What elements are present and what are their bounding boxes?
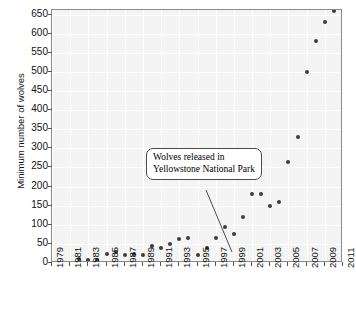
data-point — [314, 39, 318, 43]
data-point — [305, 70, 309, 74]
gridline-horizontal — [52, 225, 341, 226]
x-axis-tick-mark — [251, 262, 252, 266]
gridline-horizontal — [52, 72, 341, 73]
plot-area — [51, 9, 342, 262]
x-axis-tick-mark — [178, 262, 179, 266]
gridline-horizontal — [52, 91, 341, 92]
y-axis-tick-mark — [48, 224, 52, 225]
data-point — [277, 200, 281, 204]
y-axis-tick-mark — [48, 166, 52, 167]
y-axis-tick-label: 50 — [14, 238, 48, 248]
annotation-wolves-released: Wolves released in Yellowstone National … — [146, 148, 262, 180]
gridline-horizontal — [52, 129, 341, 130]
gridline-vertical — [179, 10, 180, 261]
x-axis-tick-mark — [142, 262, 143, 266]
y-axis-tick-mark — [48, 262, 52, 263]
gridline-vertical — [270, 10, 271, 261]
data-point — [223, 225, 227, 229]
data-point — [196, 253, 200, 257]
x-axis-tick-mark — [197, 262, 198, 266]
gridline-vertical — [70, 10, 71, 261]
x-axis-tick-label: 2011 — [346, 248, 356, 268]
y-axis-tick-mark — [48, 147, 52, 148]
gridline-vertical — [52, 10, 53, 261]
gridline-vertical — [198, 10, 199, 261]
x-axis-tick-label: 2001 — [255, 247, 265, 268]
gridline-vertical — [143, 10, 144, 261]
gridline-horizontal — [52, 244, 341, 245]
gridline-vertical — [288, 10, 289, 261]
data-point — [250, 192, 254, 196]
gridline-vertical — [125, 10, 126, 261]
data-point — [177, 237, 181, 241]
gridline-vertical — [216, 10, 217, 261]
annotation-line-1: Wolves released in — [153, 152, 225, 162]
gridline-horizontal — [52, 110, 341, 111]
y-axis-tick-label: 200 — [14, 181, 48, 191]
x-axis-tick-mark — [287, 262, 288, 266]
x-axis-tick-label: 1999 — [237, 247, 247, 268]
y-axis-tick-mark — [48, 186, 52, 187]
x-axis-tick-label: 1981 — [73, 247, 83, 268]
data-point — [232, 232, 236, 236]
y-axis-tick-label: 450 — [14, 85, 48, 95]
x-axis-tick-label: 2007 — [310, 247, 320, 268]
y-axis-tick-label: 150 — [14, 200, 48, 210]
y-axis-tick-label: 350 — [14, 123, 48, 133]
x-axis-tick-mark — [342, 262, 343, 266]
x-axis-tick-mark — [269, 262, 270, 266]
gridline-vertical — [325, 10, 326, 261]
gridline-vertical — [107, 10, 108, 261]
gridline-horizontal — [52, 15, 341, 16]
gridline-vertical — [88, 10, 89, 261]
y-axis-tick-mark — [48, 71, 52, 72]
x-axis-tick-label: 1991 — [164, 247, 174, 268]
x-axis-tick-mark — [160, 262, 161, 266]
x-axis-tick-mark — [87, 262, 88, 266]
y-axis-tick-mark — [48, 205, 52, 206]
y-axis-tick-mark — [48, 90, 52, 91]
data-point — [105, 252, 109, 256]
y-axis-tick-label: 250 — [14, 161, 48, 171]
data-point — [286, 160, 290, 164]
data-point — [268, 204, 272, 208]
x-axis-tick-label: 1987 — [128, 247, 138, 268]
data-point — [168, 242, 172, 246]
x-axis-tick-mark — [324, 262, 325, 266]
y-axis-tick-label: 500 — [14, 66, 48, 76]
gridline-vertical — [161, 10, 162, 261]
x-axis-tick-mark — [124, 262, 125, 266]
x-axis-tick-label: 1989 — [146, 247, 156, 268]
y-axis-tick-label: 300 — [14, 142, 48, 152]
y-axis-tick-labels: 050100150200250300350400450500550600650 — [12, 0, 48, 310]
data-point — [323, 20, 327, 24]
gridline-horizontal — [52, 206, 341, 207]
y-axis-tick-mark — [48, 128, 52, 129]
gridline-vertical — [252, 10, 253, 261]
annotation-line-2: Yellowstone National Park — [153, 164, 255, 176]
gridline-horizontal — [52, 187, 341, 188]
data-point — [259, 192, 263, 196]
y-axis-tick-label: 650 — [14, 9, 48, 19]
y-axis-tick-label: 550 — [14, 47, 48, 57]
data-point — [214, 236, 218, 240]
gridline-horizontal — [52, 34, 341, 35]
y-axis-tick-label: 400 — [14, 104, 48, 114]
gridline-horizontal — [52, 53, 341, 54]
gridline-vertical — [307, 10, 308, 261]
x-axis-tick-label: 2005 — [291, 247, 301, 268]
y-axis-tick-mark — [48, 243, 52, 244]
y-axis-tick-mark — [48, 109, 52, 110]
y-axis-tick-label: 100 — [14, 219, 48, 229]
y-axis-tick-mark — [48, 52, 52, 53]
x-axis-tick-label: 1983 — [91, 247, 101, 268]
gridline-vertical — [234, 10, 235, 261]
x-axis-tick-label: 1995 — [201, 247, 211, 268]
x-axis-tick-label: 1979 — [55, 247, 65, 268]
data-point — [241, 215, 245, 219]
x-axis-tick-label: 1985 — [110, 247, 120, 268]
x-axis-tick-mark — [306, 262, 307, 266]
x-axis-tick-label: 1997 — [219, 247, 229, 268]
x-axis-tick-mark — [106, 262, 107, 266]
